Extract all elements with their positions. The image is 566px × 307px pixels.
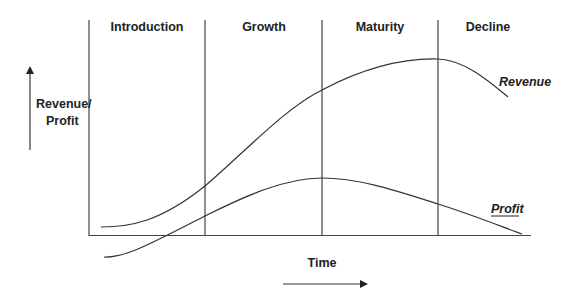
revenue-curve [101,59,508,227]
stage-label-decline: Decline [466,20,511,34]
revenue-curve-label: Revenue [499,75,551,89]
stage-label-maturity: Maturity [356,20,405,34]
stage-label-introduction: Introduction [111,20,184,34]
profit-curve-label: Profit [491,202,524,216]
y-axis-label-line1: Revenue/ [36,97,92,111]
y-axis-label-line2: Profit [46,114,79,128]
profit-curve [104,178,522,257]
x-axis-label: Time [308,256,337,270]
product-life-cycle-diagram: Introduction Growth Maturity Decline Rev… [0,0,566,307]
stage-label-growth: Growth [242,20,286,34]
